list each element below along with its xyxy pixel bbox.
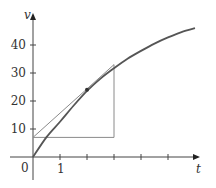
labels: v t 0 [21, 8, 201, 176]
chart: 110203040 v t 0 [0, 0, 216, 188]
y-tick-label: 30 [11, 66, 26, 80]
y-axis-label: v [24, 8, 31, 22]
tangent-line [33, 65, 114, 138]
y-tick-label: 20 [11, 94, 26, 108]
tangent-point [85, 88, 89, 92]
x-tick-label: 1 [57, 162, 65, 176]
y-tick-label: 40 [11, 38, 26, 52]
axes [10, 13, 200, 180]
y-tick-label: 10 [11, 122, 26, 136]
x-axis-arrow-icon [193, 154, 200, 160]
tangent-guides [33, 65, 114, 138]
x-axis-label: t [196, 162, 201, 176]
y-axis-arrow-icon [30, 13, 36, 20]
origin-label: 0 [21, 161, 29, 175]
